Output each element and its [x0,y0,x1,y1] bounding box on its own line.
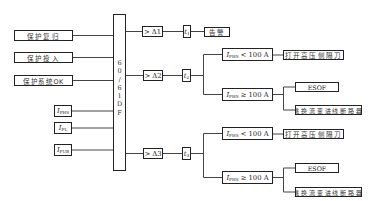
relation: ≥ 100 A [241,91,269,99]
action-open-disconnector-label: 打开高压侧隔刀 [285,50,342,60]
label-char: 6 [114,84,125,92]
relation: < 100 A [241,51,269,59]
condition-high-current-label: IFHS ≥ 100 A [226,174,268,182]
action-open-disconnector-box: 打开高压侧隔刀 [283,50,344,60]
condition-high-current-box: IFHS ≥ 100 A [222,171,273,184]
label-char: F [114,109,125,117]
relation: < 100 A [241,130,269,138]
subscript: FHS [229,177,238,182]
condition-low-current-box: IFHS < 100 A [222,48,273,61]
delay-t1-box: t1 [183,25,191,38]
threshold-delta2-box: > Δ2 [143,70,163,81]
subscript: FHS [229,94,238,99]
action-esof-box: ESOF [295,163,339,173]
input-i-fl-label: IFL [59,124,67,132]
delay-t3-label: t3 [184,150,189,158]
action-open-disconnector-box: 打开高压侧隔刀 [283,129,344,139]
input-i-fub-label: IFUB [57,146,69,154]
threshold-delta2-label: > Δ2 [144,72,161,80]
delay-t2-box: t2 [182,69,191,82]
threshold-delta3-label: > Δ3 [144,150,161,158]
delay-t2-label: t2 [184,72,189,80]
threshold-delta1-box: > Δ1 [142,26,163,37]
action-esof-label: ESOF [308,84,326,91]
input-i-fhs-box: IFHS [54,105,72,117]
label-char: D [114,100,125,108]
input-reset-box: 保护复归 [14,30,73,41]
central-block-60-61df: 6 0 / 6 1 D F [113,14,126,171]
condition-low-current-label: IFHS < 100 A [226,51,268,59]
delay-t1-label: t1 [184,28,189,36]
central-block-label: 6 0 / 6 1 D F [114,59,125,117]
subscript: 2 [187,75,190,80]
action-esof-label: ESOF [308,165,326,172]
action-esof-box: ESOF [295,82,339,92]
input-i-fl-box: IFL [54,122,72,134]
threshold-delta3-box: > Δ3 [143,148,163,159]
action-open-disconnector-label: 打开高压侧隔刀 [285,129,342,139]
input-system-ok-label: 保护系统OK [23,76,64,86]
condition-high-current-box: IFHS ≥ 100 A [222,88,273,101]
input-enable-box: 保护投入 [14,52,73,63]
threshold-delta1-label: > Δ1 [144,28,161,36]
subscript: FUB [60,149,70,154]
delay-t3-box: t3 [182,147,191,160]
input-i-fhs-label: IFHS [57,107,69,115]
subscript: FHS [229,54,238,59]
action-trip-breaker-box: 跳换流变进线断路器 [295,105,362,115]
condition-high-current-label: IFHS ≥ 100 A [226,91,268,99]
subscript: 1 [187,31,190,36]
action-trip-breaker-label: 跳换流变进线断路器 [295,188,362,197]
action-trip-breaker-box: 跳换流变进线断路器 [295,187,362,197]
relation: ≥ 100 A [241,174,269,182]
input-i-fub-box: IFUB [54,144,72,156]
input-reset-label: 保护复归 [27,31,60,41]
input-system-ok-box: 保护系统OK [14,75,73,86]
input-enable-label: 保护投入 [27,53,60,63]
action-alarm-label: 告警 [209,27,225,37]
subscript: FL [62,127,68,132]
condition-low-current-label: IFHS < 100 A [226,130,268,138]
subscript: FHS [229,133,238,138]
label-char: 6 [114,59,125,67]
subscript: 3 [187,153,190,158]
label-char: 1 [114,92,125,100]
label-char: 0 [114,67,125,75]
subscript: FHS [60,110,69,115]
action-trip-breaker-label: 跳换流变进线断路器 [295,106,362,115]
label-char: / [114,76,125,84]
action-alarm-box: 告警 [204,27,230,37]
condition-low-current-box: IFHS < 100 A [222,127,273,140]
